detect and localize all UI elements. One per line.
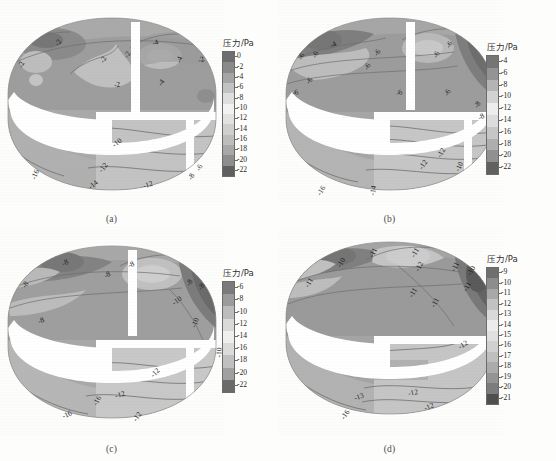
colorbar-band <box>223 355 234 367</box>
colorbar-tick-mark <box>499 325 502 326</box>
colorbar-band <box>487 289 498 299</box>
colorbar-tick-mark <box>499 304 502 305</box>
panel-d-plot: -11-11-10-11-12-11-10-11-11-11-12-12-12-… <box>278 230 503 435</box>
colorbar-b: 压力/Pa -4-6-8-10-12-14-16-18-20-22 <box>486 40 522 175</box>
colorbar-tick-mark <box>235 118 238 119</box>
colorbar-title-d: 压力/Pa <box>487 252 518 264</box>
colorbar-tick-mark <box>499 108 502 109</box>
colorbar-band <box>223 52 234 62</box>
colorbar-band <box>487 103 498 115</box>
colorbar-band <box>223 343 234 355</box>
colorbar-tick-label: -18 <box>501 140 511 148</box>
colorbar-title-c: 压力/Pa <box>223 266 254 278</box>
colorbar-tick-label: -18 <box>237 145 247 153</box>
colorbar-band <box>223 135 234 145</box>
colorbar-tick-mark <box>235 77 238 78</box>
colorbar-d: 压力/Pa -9-10-11-12-13-14-15-16-17-18-19-2… <box>486 252 522 405</box>
colorbar-band <box>487 127 498 139</box>
colorbar-title-b: 压力/Pa <box>487 40 518 52</box>
colorbar-tick-mark <box>235 287 238 288</box>
colorbar-tick-mark <box>235 149 238 150</box>
colorbar-band <box>487 299 498 309</box>
colorbar-tick-mark <box>235 170 238 171</box>
colorbar-band <box>487 139 498 151</box>
colorbar-band <box>487 56 498 68</box>
colorbar-tick-label: -12 <box>237 320 247 328</box>
colorbar-tick-mark <box>235 385 238 386</box>
colorbar-ticks-b: -4-6-8-10-12-14-16-18-20-22 <box>500 55 522 173</box>
colorbar-tick-mark <box>499 120 502 121</box>
colorbar-tick-mark <box>499 314 502 315</box>
panel-a: -2-2-2-2-2-4-4-4-2-10-12-14-16-12-8-6 压力… <box>0 0 278 230</box>
colorbar-tick-mark <box>499 272 502 273</box>
colorbar-tick-mark <box>499 345 502 346</box>
colorbar-ticks-a: 0-2-4-6-8-10-12-14-16-18-20-22 <box>236 51 258 175</box>
colorbar-band <box>487 362 498 372</box>
cylinder-surface-b <box>278 0 503 205</box>
panel-c-plot: -8-8-8-8-8-8-8-10-10-10-12-12-12-16-16 <box>0 230 225 435</box>
colorbar-band <box>223 282 234 294</box>
colorbar-band <box>223 331 234 343</box>
colorbar-tick-mark <box>499 283 502 284</box>
colorbar-tick-label: -22 <box>237 166 247 174</box>
colorbar-band <box>223 319 234 331</box>
colorbar-tick-mark <box>499 387 502 388</box>
colorbar-tick-label: -20 <box>237 156 247 164</box>
colorbar-tick-label: -12 <box>501 300 511 308</box>
panel-caption-d: (d) <box>278 444 501 454</box>
colorbar-ticks-c: -6-8-10-12-14-16-18-20-22 <box>236 281 258 391</box>
colorbar-tick-label: -10 <box>501 93 511 101</box>
panel-d: -11-11-10-11-12-11-10-11-11-11-12-12-12-… <box>278 230 556 460</box>
colorbar-tick-label: -20 <box>237 369 247 377</box>
cylinder-surface-a <box>0 0 225 205</box>
panel-c: -8-8-8-8-8-8-8-10-10-10-12-12-12-16-16 压… <box>0 230 278 460</box>
colorbar-band <box>223 93 234 103</box>
colorbar-tick-mark <box>499 73 502 74</box>
colorbar-tick-mark <box>499 366 502 367</box>
colorbar-tick-label: -18 <box>501 363 511 371</box>
colorbar-band <box>487 331 498 341</box>
colorbar-band <box>223 62 234 72</box>
colorbar-tick-label: -22 <box>501 163 511 171</box>
colorbar-ticks-d: -9-10-11-12-13-14-15-16-17-18-19-20-21 <box>500 267 522 403</box>
colorbar-band <box>487 162 498 174</box>
colorbar-tick-label: -14 <box>237 125 247 133</box>
colorbar-band <box>487 310 498 320</box>
colorbar-band <box>487 91 498 103</box>
colorbar-tick-mark <box>499 293 502 294</box>
colorbar-tick-mark <box>235 360 238 361</box>
colorbar-band <box>487 341 498 351</box>
colorbar-tick-label: -22 <box>237 381 247 389</box>
colorbar-band <box>223 294 234 306</box>
colorbar-title-a: 压力/Pa <box>223 36 254 48</box>
panel-b: -4-6-6-6-6-6-6-6-6-6-6-8-8-12-12-10-14-1… <box>278 0 556 230</box>
colorbar-band <box>487 268 498 278</box>
colorbar-tick-label: -16 <box>237 135 247 143</box>
cylinder-surface-c <box>0 230 225 435</box>
cylinder-surface-d <box>278 230 503 435</box>
colorbar-band <box>487 373 498 383</box>
colorbar-tick-label: -10 <box>501 279 511 287</box>
colorbar-tick-mark <box>499 335 502 336</box>
colorbar-band <box>487 68 498 80</box>
colorbar-band <box>223 145 234 155</box>
colorbar-a: 压力/Pa 0-2-4-6-8-10-12-14-16-18-20-22 <box>222 36 258 177</box>
colorbar-band <box>223 83 234 93</box>
colorbar-band <box>487 115 498 127</box>
colorbar-tick-label: -10 <box>237 104 247 112</box>
colorbar-tick-mark <box>499 155 502 156</box>
colorbar-band <box>223 368 234 380</box>
colorbar-tick-mark <box>235 324 238 325</box>
colorbar-tick-label: -17 <box>501 352 511 360</box>
colorbar-tick-mark <box>499 356 502 357</box>
panel-caption-a: (a) <box>0 214 223 224</box>
colorbar-band <box>487 80 498 92</box>
colorbar-tick-mark <box>499 144 502 145</box>
panel-a-plot: -2-2-2-2-2-4-4-4-2-10-12-14-16-12-8-6 <box>0 0 225 205</box>
colorbar-band <box>223 166 234 176</box>
colorbar-band <box>223 114 234 124</box>
colorbar-band <box>223 306 234 318</box>
colorbar-tick-mark <box>499 132 502 133</box>
colorbar-tick-mark <box>235 56 238 57</box>
colorbar-tick-label: -18 <box>237 357 247 365</box>
